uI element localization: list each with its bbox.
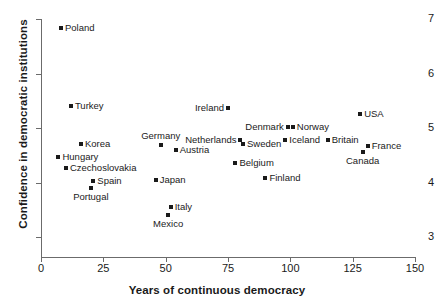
data-point-label: Turkey (75, 101, 104, 111)
data-point-label: USA (364, 109, 384, 119)
data-point (169, 205, 173, 209)
y-tick-label: 7 (404, 12, 434, 24)
data-point (59, 26, 63, 30)
data-point (79, 142, 83, 146)
data-point-label: Korea (85, 139, 110, 149)
x-tick-label: 100 (270, 262, 310, 274)
data-point-label: Mexico (153, 219, 183, 229)
data-point-label: Austria (180, 145, 210, 155)
data-point (291, 125, 295, 129)
data-point-label: Norway (297, 122, 329, 132)
data-point (366, 144, 370, 148)
data-point (69, 104, 73, 108)
data-point (89, 186, 93, 190)
data-point (56, 155, 60, 159)
y-tick-label: 6 (404, 67, 434, 79)
y-tick-mark (36, 74, 41, 75)
y-tick-mark (36, 183, 41, 184)
data-point (358, 112, 362, 116)
data-point-label: Belgium (239, 158, 273, 168)
data-point (154, 178, 158, 182)
data-point-label: Spain (97, 176, 121, 186)
data-point-label: Hungary (62, 152, 98, 162)
y-tick-mark (36, 237, 41, 238)
y-axis-title: Confidence in democratic institutions (17, 9, 29, 239)
x-tick-label: 75 (208, 262, 248, 274)
data-point-label: Italy (175, 202, 192, 212)
data-point-label: Portugal (73, 192, 108, 202)
x-tick-label: 25 (83, 262, 123, 274)
data-point (64, 166, 68, 170)
data-point (326, 138, 330, 142)
data-point-label: Finland (269, 173, 300, 183)
data-point-label: Germany (141, 131, 180, 141)
data-point-label: Poland (65, 23, 95, 33)
data-point (166, 213, 170, 217)
data-point-label: Japan (160, 175, 186, 185)
data-point (174, 148, 178, 152)
data-point (263, 176, 267, 180)
y-axis-line (41, 19, 42, 257)
data-point-label: France (372, 141, 402, 151)
x-tick-label: 125 (333, 262, 373, 274)
x-tick-label: 50 (146, 262, 186, 274)
data-point-label: Canada (346, 156, 379, 166)
y-tick-label: 4 (404, 176, 434, 188)
x-tick-label: 150 (395, 262, 435, 274)
data-point-label: Czechoslovakia (70, 163, 137, 173)
data-point-label: Sweden (247, 139, 281, 149)
data-point (241, 142, 245, 146)
data-point (283, 138, 287, 142)
x-tick-label: 0 (21, 262, 61, 274)
data-point (233, 161, 237, 165)
y-tick-label: 5 (404, 121, 434, 133)
y-tick-mark (36, 19, 41, 20)
x-axis-title: Years of continuous democracy (0, 284, 434, 296)
data-point (361, 150, 365, 154)
data-point-label: Britain (332, 135, 359, 145)
data-point (91, 179, 95, 183)
y-tick-label: 3 (404, 230, 434, 242)
data-point-label: Ireland (224, 103, 253, 113)
y-tick-mark (36, 128, 41, 129)
data-point-label: Iceland (289, 135, 320, 145)
data-point (159, 143, 163, 147)
